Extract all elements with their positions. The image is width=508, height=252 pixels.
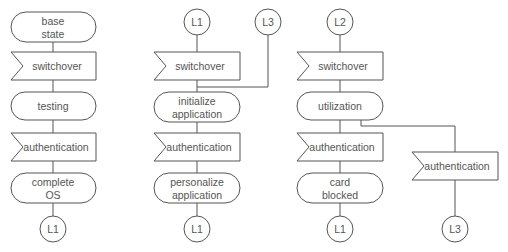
- input-label: authentication: [424, 160, 490, 172]
- flow-diagram: base state switchover testing authentica…: [0, 0, 508, 252]
- state-label: application: [172, 108, 222, 120]
- state-testing[interactable]: testing: [11, 92, 96, 120]
- connector-l3-entry[interactable]: L3: [255, 9, 281, 35]
- state-utilization[interactable]: utilization: [297, 92, 383, 120]
- state-personalize-application[interactable]: personalize application: [154, 173, 240, 203]
- connector-l1[interactable]: L1: [40, 216, 66, 242]
- input-label: switchover: [318, 60, 368, 72]
- input-authentication[interactable]: authentication: [11, 133, 96, 161]
- state-label: blocked: [322, 189, 358, 201]
- connector-label: L1: [191, 16, 203, 28]
- connector-l3[interactable]: L3: [442, 216, 468, 242]
- state-label: testing: [38, 100, 69, 112]
- state-initialize-application[interactable]: initialize application: [154, 92, 240, 122]
- state-base-state[interactable]: base state: [11, 12, 96, 42]
- input-switchover[interactable]: switchover: [154, 52, 240, 80]
- connector-l1[interactable]: L1: [327, 216, 353, 242]
- connector-label: L3: [262, 16, 274, 28]
- state-label: card: [330, 176, 351, 188]
- state-label: OS: [45, 189, 60, 201]
- input-label: switchover: [32, 60, 82, 72]
- connector-label: L1: [191, 223, 203, 235]
- column-1: base state switchover testing authentica…: [11, 12, 96, 242]
- input-authentication[interactable]: authentication: [297, 133, 383, 161]
- input-authentication-branch[interactable]: authentication: [412, 152, 498, 180]
- connector-label: L3: [449, 223, 461, 235]
- connector-l1[interactable]: L1: [184, 216, 210, 242]
- input-label: authentication: [23, 141, 89, 153]
- connector-label: L2: [334, 16, 346, 28]
- state-label: initialize: [178, 95, 216, 107]
- connector-l2-entry[interactable]: L2: [327, 9, 353, 35]
- connector-label: L1: [47, 223, 59, 235]
- state-label: base: [42, 15, 65, 27]
- state-label: application: [172, 189, 222, 201]
- state-complete-os[interactable]: complete OS: [11, 173, 96, 203]
- input-authentication[interactable]: authentication: [154, 133, 240, 161]
- state-label: complete: [32, 176, 75, 188]
- state-label: state: [42, 28, 65, 40]
- state-label: personalize: [170, 176, 224, 188]
- input-switchover[interactable]: switchover: [11, 52, 96, 80]
- column-3: L2 switchover utilization authentication…: [297, 9, 498, 242]
- connector-l1-entry[interactable]: L1: [184, 9, 210, 35]
- state-card-blocked[interactable]: card blocked: [297, 173, 383, 203]
- state-label: utilization: [318, 100, 362, 112]
- connector-label: L1: [334, 223, 346, 235]
- input-label: switchover: [175, 60, 225, 72]
- input-switchover[interactable]: switchover: [297, 52, 383, 80]
- column-2: L1 L3 switchover initialize application …: [154, 9, 281, 242]
- input-label: authentication: [166, 141, 232, 153]
- input-label: authentication: [309, 141, 375, 153]
